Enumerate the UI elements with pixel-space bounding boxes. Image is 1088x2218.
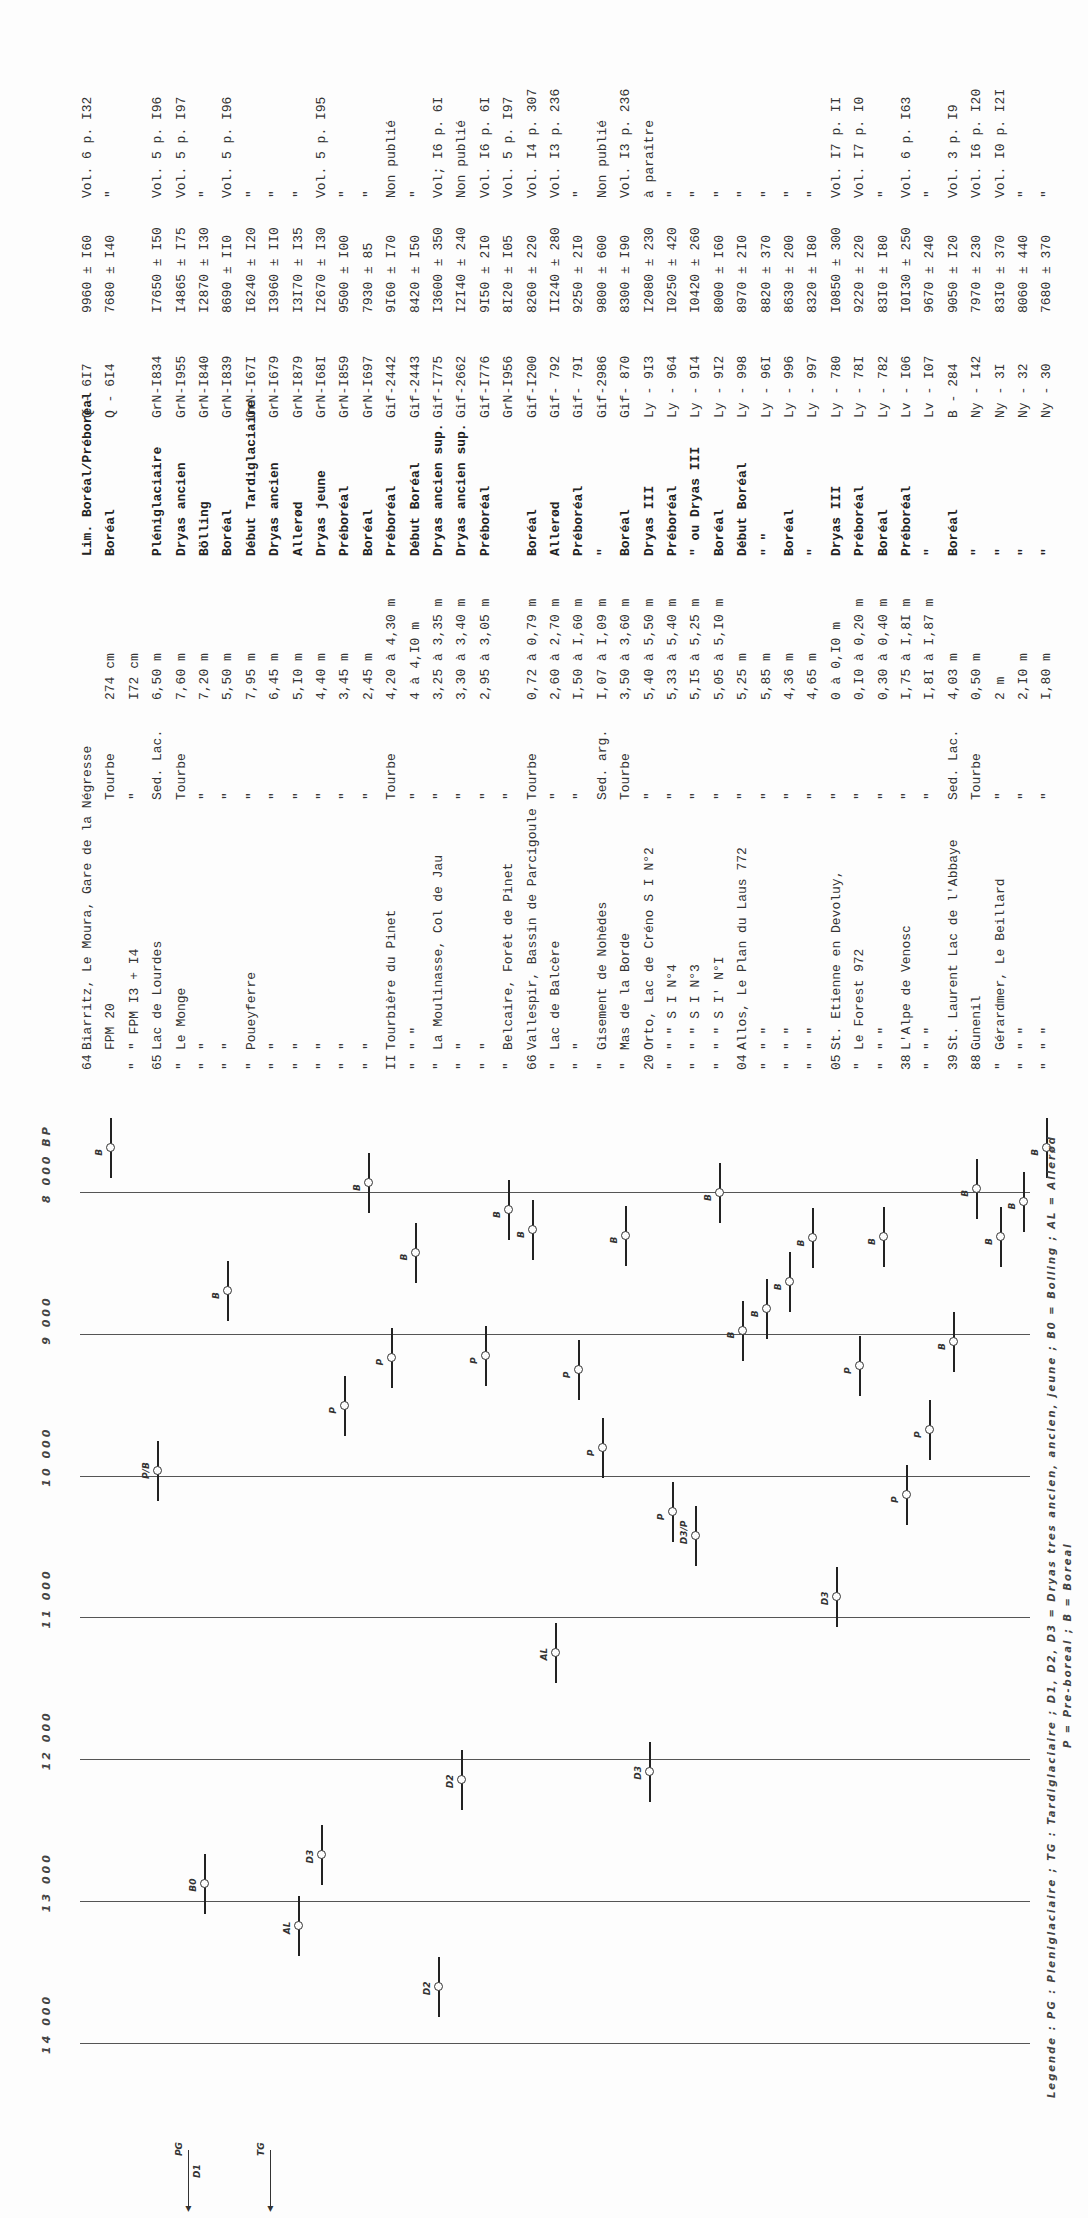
cell-name: Mas de la Borde <box>616 933 636 1050</box>
date-point-icon <box>551 1648 560 1657</box>
cell-period: Boréal <box>523 509 543 556</box>
cell-material: " <box>780 792 800 800</box>
cell-material: " <box>874 792 894 800</box>
cell-material: Sed. Lac. <box>148 730 168 800</box>
cell-ref: Vol; I6 p. 6I <box>429 97 449 198</box>
date-marker: AL <box>555 1623 557 1683</box>
date-point-icon <box>879 1232 888 1241</box>
cell-date: 7680 ± I40 <box>101 235 121 313</box>
marker-label: P <box>890 1497 900 1504</box>
cell-ref: à paraître <box>640 120 660 198</box>
cell-num: II <box>382 1054 402 1070</box>
marker-label: B <box>399 1254 409 1261</box>
cell-date: 9220 ± 220 <box>850 235 870 313</box>
date-marker: B <box>953 1312 955 1372</box>
cell-num: " <box>429 1062 449 1070</box>
cell-material: " <box>640 792 660 800</box>
cell-ref: Vol. 5 p. I96 <box>148 97 168 198</box>
cell-period: " <box>803 548 823 556</box>
cell-ref: " <box>406 190 426 198</box>
cell-date: 9050 ± I20 <box>944 235 964 313</box>
date-marker: B <box>976 1159 978 1219</box>
cell-ref: " <box>733 190 753 198</box>
cell-name: L'Alpe de Venosc <box>897 925 917 1050</box>
cell-material: " <box>920 792 940 800</box>
cell-depth: 5,40 à 5,50 m <box>640 599 660 700</box>
cell-depth: 5,50 m <box>218 653 238 700</box>
cell-ref: " <box>686 190 706 198</box>
table-row: """I,50 à I,60 mPréboréalGif- 79I9250 ± … <box>569 0 589 2218</box>
axis-tick-label: 9 000 <box>40 1295 53 1344</box>
cell-period: " " <box>757 533 777 556</box>
date-point-icon <box>106 1143 115 1152</box>
cell-depth: 2 m <box>991 677 1011 700</box>
cell-depth: 4,65 m <box>803 653 823 700</box>
cell-num: " <box>125 1062 145 1070</box>
cell-ref: Vol. I4 p. 307 <box>523 89 543 198</box>
cell-period: Début Tardiglaciaire <box>242 400 262 556</box>
date-marker: D3 <box>836 1567 838 1627</box>
table-row: 20Orto, Lac de Créno S I N°2"5,40 à 5,50… <box>640 0 660 2218</box>
cell-material: " <box>218 792 238 800</box>
cell-material: " <box>265 792 285 800</box>
cell-depth: 5,I0 m <box>289 653 309 700</box>
cell-depth: 7,60 m <box>172 653 192 700</box>
cell-ref: " <box>710 190 730 198</box>
cell-lab: Gif-2442 <box>382 356 402 418</box>
cell-material: " <box>850 792 870 800</box>
cell-depth: 0 à 0,I0 m <box>827 622 847 700</box>
cell-lab: Gif-I200 <box>523 356 543 418</box>
table-row: "" " S I' N°I"5,05 à 5,I0 mBoréalLy - 9I… <box>710 0 730 2218</box>
date-marker: B <box>110 1118 112 1178</box>
cell-period: Début Boréal <box>733 462 753 556</box>
cell-period: Dryas III <box>827 486 847 556</box>
cell-depth: 2,95 à 3,05 m <box>476 599 496 700</box>
cell-num: " <box>920 1062 940 1070</box>
cell-name: " <box>195 1042 215 1050</box>
cell-material: Tourbe <box>382 753 402 800</box>
cell-period: Préboréal <box>569 486 589 556</box>
cell-date: 9I60 ± I70 <box>382 235 402 313</box>
cell-lab: Ly - 9I3 <box>640 356 660 418</box>
cell-num: " <box>663 1062 683 1070</box>
marker-label: B <box>960 1190 970 1197</box>
date-point-icon <box>200 1879 209 1888</box>
cell-name: " <box>569 1042 589 1050</box>
cell-name: " <box>476 1042 496 1050</box>
cell-num: " <box>406 1062 426 1070</box>
cell-ref: Vol. I0 p. I2I <box>991 89 1011 198</box>
cell-date: 9500 ± I00 <box>335 235 355 313</box>
cell-name: " <box>452 1042 472 1050</box>
cell-ref: Vol. I3 p. 236 <box>616 89 636 198</box>
marker-label: D2 <box>445 1774 455 1788</box>
table-row: 05St. Etienne en Devoluy,"0 à 0,I0 mDrya… <box>827 0 847 2218</box>
cell-period: Préboréal <box>382 486 402 556</box>
cell-num: " <box>569 1062 589 1070</box>
cell-period: " <box>593 548 613 556</box>
cell-date: I3600 ± 350 <box>429 227 449 313</box>
table-row: 88GunenilTourbe0,50 m"Ny - I427970 ± 230… <box>967 0 987 2218</box>
cell-date: 9800 ± 600 <box>593 235 613 313</box>
cell-date: I7650 ± I50 <box>148 227 168 313</box>
cell-name: " " <box>780 1027 800 1050</box>
cell-lab: GrN-I840 <box>195 356 215 418</box>
date-marker: B <box>368 1153 370 1213</box>
cell-depth: 2,I0 m <box>1014 653 1034 700</box>
table-row: 65Lac de LourdesSed. Lac.6,50 mPléniglac… <box>148 0 168 2218</box>
cell-depth: 2,60 à 2,70 m <box>546 599 566 700</box>
cell-name: Orto, Lac de Créno S I N°2 <box>640 847 660 1050</box>
table-row: 04Allos, Le Plan du Laus 772"5,25 mDébut… <box>733 0 753 2218</box>
cell-period: " <box>991 548 1011 556</box>
cell-period: Préboréal <box>476 486 496 556</box>
cell-period: Préboréal <box>335 486 355 556</box>
cell-num: " <box>172 1062 192 1070</box>
cell-depth: I,80 m <box>1037 653 1057 700</box>
cell-ref: " <box>663 190 683 198</box>
cell-name: " <box>218 1042 238 1050</box>
date-point-icon <box>972 1184 981 1193</box>
cell-material: Tourbe <box>101 753 121 800</box>
cell-material: " <box>710 792 730 800</box>
marker-label: B <box>352 1184 362 1191</box>
cell-num: " <box>218 1062 238 1070</box>
marker-label: B <box>796 1240 806 1247</box>
